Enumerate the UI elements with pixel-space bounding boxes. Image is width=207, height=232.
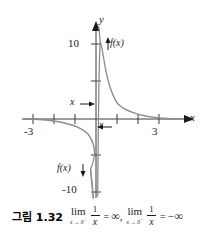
annotation-f-of-x-increasing: f(x): [110, 38, 124, 48]
limit-operator-left: lim x → 0−: [126, 206, 143, 225]
lim-subscript-sign: +: [83, 217, 86, 222]
hyperbola-plot: [0, 0, 207, 200]
figure-number-label: 그림 1.32: [12, 208, 63, 224]
lim-subscript: x → 0+: [70, 218, 87, 225]
x-tick-label-negative-3: -3: [24, 126, 33, 137]
limit-result-negative-infinity: −∞: [168, 209, 183, 224]
figure-caption: 그림 1.32 lim x → 0+ 1 x = ∞ , lim x → 0− …: [0, 200, 207, 232]
y-tick-label-negative-10: -10: [62, 184, 77, 195]
lim-subscript-sign: −: [140, 217, 143, 222]
limit-expression-right: lim x → 0+ 1 x = ∞: [70, 205, 120, 227]
asymptote-upper: [99, 27, 100, 41]
annotation-x-approaching-right: x: [70, 97, 74, 107]
x-axis-label: x: [190, 112, 195, 123]
caption-separator: ,: [120, 210, 123, 222]
annotation-f-of-x-decreasing: f(x): [57, 163, 71, 173]
lim-subscript: x → 0−: [126, 218, 143, 225]
y-tick-label-10: 10: [68, 38, 79, 49]
y-axis-label: y: [99, 14, 104, 25]
x-tick-label-3: 3: [152, 126, 158, 137]
asymptote-lower: [91, 169, 94, 198]
limit-result-infinity: ∞: [111, 209, 120, 224]
relation-equals: =: [104, 211, 110, 222]
fraction-denominator: x: [93, 216, 97, 227]
lim-subscript-base: x → 0: [70, 219, 83, 225]
fraction-denominator: x: [149, 216, 153, 227]
fraction-numerator: 1: [93, 205, 98, 215]
fraction-numerator: 1: [149, 205, 154, 215]
fraction-one-over-x: 1 x: [91, 205, 100, 227]
curve-branch-negative: [24, 119, 94, 198]
annotation-x-approaching-left: x: [99, 120, 103, 130]
fraction-one-over-x: 1 x: [147, 205, 156, 227]
limit-operator-right: lim x → 0+: [70, 206, 87, 225]
lim-text: lim: [71, 206, 86, 217]
limit-expression-left: lim x → 0− 1 x = −∞: [126, 205, 183, 227]
relation-equals: =: [160, 211, 166, 222]
lim-text: lim: [127, 206, 142, 217]
figure-panel: y x 10 -10 -3 3 f(x) f(x) x x: [0, 0, 207, 200]
lim-subscript-base: x → 0: [126, 219, 139, 225]
